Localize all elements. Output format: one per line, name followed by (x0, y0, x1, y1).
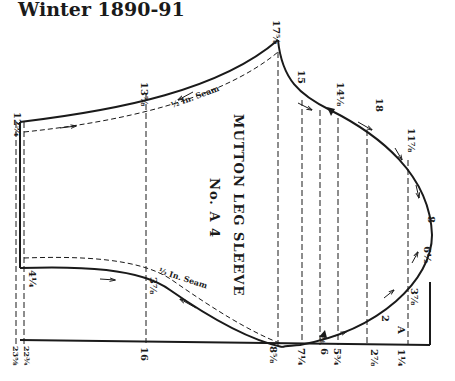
pattern-name: MUTTON LEG SLEEVE (231, 114, 246, 296)
svg-text:18: 18 (374, 98, 385, 112)
notch-marks (319, 107, 335, 338)
top-labels: 12¾ 13⅞ 17⅝ 15 14⅛ 18 11⅞ 8 6½ 3⅞ 2 4¼ 3… (12, 20, 437, 322)
svg-text:3⅞: 3⅞ (409, 288, 420, 306)
letter-mark: A (396, 325, 407, 334)
sleeve-pattern-diagram: 12¾ 13⅞ 17⅝ 15 14⅛ 18 11⅞ 8 6½ 3⅞ 2 4¼ 3… (0, 0, 455, 381)
svg-text:17⅝: 17⅝ (271, 20, 282, 45)
pattern-number: No. A 4 (207, 178, 222, 238)
svg-text:22¾: 22¾ (22, 346, 32, 366)
svg-text:4¼: 4¼ (27, 270, 38, 288)
svg-text:12¾: 12¾ (12, 112, 23, 137)
svg-text:11⅞: 11⅞ (406, 128, 417, 153)
outer-cutting-line (20, 40, 432, 347)
svg-text:6: 6 (319, 348, 330, 355)
svg-text:7¼: 7¼ (296, 348, 307, 366)
svg-text:8⅝: 8⅝ (268, 346, 279, 364)
svg-text:14⅛: 14⅛ (335, 82, 346, 107)
svg-text:23⅝: 23⅝ (11, 346, 21, 366)
svg-text:⅝: ⅝ (318, 336, 328, 345)
svg-text:8: 8 (426, 216, 437, 223)
svg-text:2: 2 (380, 315, 391, 322)
svg-text:15: 15 (296, 70, 307, 84)
svg-text:2⅞: 2⅞ (369, 349, 380, 367)
seam-label-top: ½ In. Seam (169, 83, 221, 110)
svg-text:13⅞: 13⅞ (139, 82, 150, 107)
svg-text:16: 16 (139, 347, 150, 361)
svg-text:1¼: 1¼ (396, 349, 407, 367)
svg-text:6½: 6½ (422, 246, 433, 263)
svg-text:5¾: 5¾ (332, 348, 343, 366)
svg-text:3⅞: 3⅞ (148, 277, 159, 295)
